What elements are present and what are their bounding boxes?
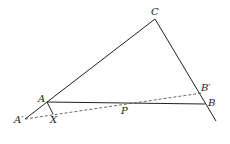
label-a: A <box>38 94 45 104</box>
segment-a-x <box>47 102 53 114</box>
label-b: B <box>208 98 215 108</box>
segment-c-b-extended <box>155 19 216 121</box>
label-p: P <box>121 106 128 116</box>
label-a-prime: A′ <box>14 115 24 125</box>
label-c: C <box>151 7 159 17</box>
label-x: X <box>50 115 57 125</box>
diagram-canvas <box>0 0 230 144</box>
geometry-diagram: C A B A′ B′ P X <box>0 0 230 144</box>
label-b-prime: B′ <box>201 83 211 93</box>
segment-a-prime-c <box>25 19 155 119</box>
segment-a-b <box>47 102 205 104</box>
